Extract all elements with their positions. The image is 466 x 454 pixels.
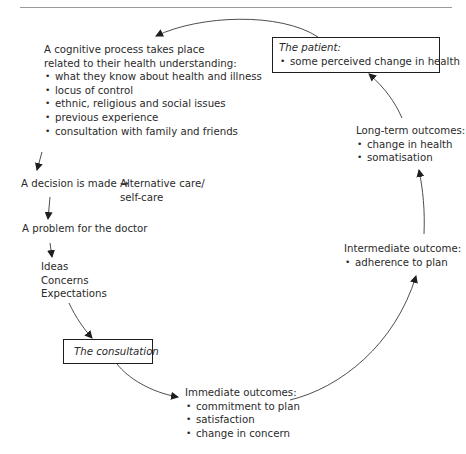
arrow-patient-to-cognitive <box>156 19 318 37</box>
patient-box: The patient: some perceived change in he… <box>272 37 440 73</box>
immediate-outcomes-list: commitment to plan satisfaction change i… <box>185 400 300 441</box>
ice-item-ideas: Ideas <box>41 260 107 274</box>
intermediate-outcome-item: adherence to plan <box>344 256 461 270</box>
decision-text: A decision is made <box>21 178 117 189</box>
longterm-outcomes-heading: Long-term outcomes: <box>356 124 465 138</box>
longterm-outcome-item: somatisation <box>356 151 465 165</box>
immediate-outcomes-heading: Immediate outcomes: <box>185 386 300 400</box>
immediate-outcome-item: satisfaction <box>185 413 300 427</box>
intermediate-outcome-block: Intermediate outcome: adherence to plan <box>344 242 461 269</box>
cognitive-heading-line2: related to their health understanding: <box>44 57 262 71</box>
arrow-problem-to-ideas <box>50 243 52 257</box>
alternative-care-line1: Alternative care/ <box>120 177 205 191</box>
patient-item: some perceived change in health <box>279 55 460 69</box>
cognitive-item: ethnic, religious and social issues <box>44 97 262 111</box>
cognitive-process-block: A cognitive process takes place related … <box>44 43 262 138</box>
immediate-outcome-item: change in concern <box>185 427 300 441</box>
alternative-care-line2: self-care <box>120 191 205 205</box>
patient-heading: The patient: <box>279 41 460 55</box>
intermediate-outcome-list: adherence to plan <box>344 256 461 270</box>
arrow-intermediate-to-longterm <box>419 170 424 234</box>
ice-list: Ideas Concerns Expectations <box>41 260 107 301</box>
consultation-box: The consultation <box>63 339 153 364</box>
alternative-care-label: Alternative care/ self-care <box>120 177 205 204</box>
cognitive-item: previous experience <box>44 111 262 125</box>
cognitive-list: what they know about health and illness … <box>44 70 262 138</box>
arrow-cognitive-to-decision <box>37 152 42 170</box>
arrow-expectations-to-consultation <box>69 303 92 338</box>
consultation-label: The consultation <box>74 345 159 359</box>
cognitive-item: what they know about health and illness <box>44 70 262 84</box>
arrow-consultation-to-immediate <box>117 364 178 397</box>
longterm-outcomes-list: change in health somatisation <box>356 138 465 165</box>
immediate-outcome-item: commitment to plan <box>185 400 300 414</box>
longterm-outcomes-block: Long-term outcomes: change in health som… <box>356 124 465 165</box>
problem-for-doctor: A problem for the doctor <box>22 222 148 236</box>
patient-list: some perceived change in health <box>279 55 460 69</box>
ice-item-concerns: Concerns <box>41 274 107 288</box>
patient-box-content: The patient: some perceived change in he… <box>279 41 460 68</box>
cognitive-item: consultation with family and friends <box>44 125 262 139</box>
cognitive-item: locus of control <box>44 84 262 98</box>
cognitive-heading-line1: A cognitive process takes place <box>44 43 262 57</box>
intermediate-outcome-heading: Intermediate outcome: <box>344 242 461 256</box>
decision-label: A decision is made → <box>21 177 129 191</box>
arrow-decision-to-problem <box>48 197 50 219</box>
immediate-outcomes-block: Immediate outcomes: commitment to plan s… <box>185 386 300 440</box>
ice-item-expectations: Expectations <box>41 287 107 301</box>
arrow-longterm-to-patient <box>369 74 402 118</box>
longterm-outcome-item: change in health <box>356 138 465 152</box>
arrow-immediate-to-intermediate <box>290 276 416 400</box>
